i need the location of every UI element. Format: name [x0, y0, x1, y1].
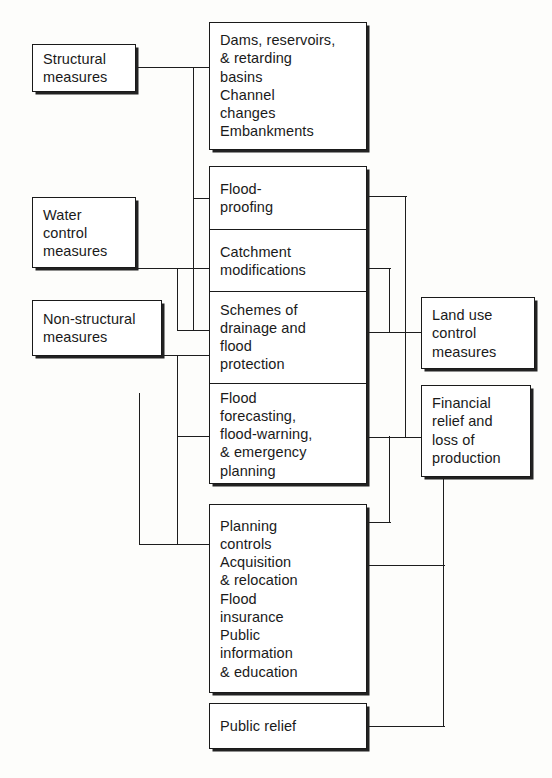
cell-flood-proofing-label: Flood- proofing [210, 180, 366, 217]
cell-schemes-of-drainage[interactable]: Schemes of drainage and flood protection [210, 291, 366, 383]
box-water-control-measures[interactable]: Water control measures [32, 197, 136, 268]
cell-schemes-of-drainage-label: Schemes of drainage and flood protection [210, 301, 366, 374]
connector-floodproofing-riser [405, 196, 406, 333]
cell-flood-forecasting[interactable]: Flood forecasting, flood-warning, & emer… [210, 383, 366, 485]
connector-financial-riser-a [405, 333, 406, 438]
box-dams-reservoirs-label: Dams, reservoirs, & retarding basins Cha… [210, 31, 366, 141]
box-structural-measures[interactable]: Structural measures [32, 44, 136, 92]
box-planning-controls-label: Planning controls Acquisition & relocati… [210, 516, 366, 680]
connector-nonstructural-to-planning [139, 544, 210, 545]
flowchart-canvas: Structural measures Water control measur… [0, 0, 552, 778]
box-financial-relief-label: Financial relief and loss of production [422, 394, 530, 467]
connector-nonstructural-out [162, 355, 210, 356]
box-land-use-control-measures[interactable]: Land use control measures [421, 297, 535, 369]
cell-flood-proofing[interactable]: Flood- proofing [210, 167, 366, 229]
connector-catchment-right [367, 268, 391, 269]
connector-water-node [177, 268, 178, 269]
group-measures-stack: Flood- proofing Catchment modifications … [209, 166, 367, 484]
box-planning-controls[interactable]: Planning controls Acquisition & relocati… [209, 504, 367, 693]
connector-planning-right-upper [367, 522, 391, 523]
connector-forecasting-to-financial [367, 437, 422, 438]
box-structural-measures-label: Structural measures [33, 50, 135, 87]
connector-nonstructural-trunk-b [139, 393, 140, 545]
box-non-structural-measures[interactable]: Non-structural measures [32, 300, 162, 356]
box-public-relief[interactable]: Public relief [209, 703, 367, 749]
connector-financial-drop [443, 477, 444, 727]
connector-water-trunk [177, 268, 178, 331]
connector-structural-out [136, 67, 210, 68]
connector-planning-to-financial-drop [367, 565, 445, 566]
connector-planning-riser [389, 436, 390, 523]
connector-structural-to-floodproofing [193, 198, 210, 199]
connector-center-riser [177, 437, 178, 545]
connector-nonstructural-trunk-a [177, 355, 178, 437]
box-financial-relief[interactable]: Financial relief and loss of production [421, 385, 531, 477]
box-land-use-control-measures-label: Land use control measures [422, 306, 534, 361]
box-non-structural-measures-label: Non-structural measures [33, 310, 161, 347]
cell-catchment-modifications[interactable]: Catchment modifications [210, 229, 366, 291]
cell-catchment-modifications-label: Catchment modifications [210, 242, 366, 279]
connector-nonstructural-to-forecasting [177, 436, 210, 437]
connector-catchment-riser [389, 268, 390, 333]
cell-flood-forecasting-label: Flood forecasting, flood-warning, & emer… [210, 389, 366, 480]
box-public-relief-label: Public relief [210, 717, 366, 735]
connector-water-out [136, 268, 212, 269]
connector-publicrelief-to-drop [367, 726, 445, 727]
connector-water-to-schemes [177, 330, 210, 331]
box-water-control-measures-label: Water control measures [33, 205, 135, 260]
connector-schemes-to-landuse [367, 332, 422, 333]
box-dams-reservoirs[interactable]: Dams, reservoirs, & retarding basins Cha… [209, 22, 367, 150]
connector-floodproofing-right [367, 196, 407, 197]
